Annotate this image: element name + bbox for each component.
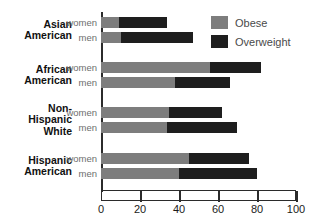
- bar-segment-obese: [101, 122, 167, 133]
- bar-row: [101, 168, 257, 179]
- bar-segment-overweight: [189, 153, 249, 164]
- x-tick-label: 100: [281, 203, 309, 215]
- x-axis-box: [101, 190, 296, 201]
- x-tick-label: 20: [125, 203, 155, 215]
- x-tick: [218, 191, 219, 202]
- bar-row: [101, 122, 237, 133]
- legend-item-overweight: Overweight: [211, 35, 291, 48]
- bar-row: [101, 107, 222, 118]
- stacked-bar-chart: AsianAmericanwomenmenAfricanAmericanwome…: [0, 0, 309, 224]
- x-tick-label: 0: [86, 203, 116, 215]
- bar-segment-obese: [101, 17, 119, 28]
- bar-segment-overweight: [119, 17, 168, 28]
- bar-segment-obese: [101, 107, 169, 118]
- legend-label-overweight: Overweight: [235, 36, 291, 48]
- legend-label-obese: Obese: [235, 17, 267, 29]
- bar-row: [101, 62, 261, 73]
- series-label-non--hispanic-white-men: men: [53, 123, 97, 133]
- legend-item-obese: Obese: [211, 16, 291, 29]
- bar-row: [101, 77, 230, 88]
- bar-segment-overweight: [169, 107, 222, 118]
- bar-segment-obese: [101, 153, 189, 164]
- series-label-african-american-men: men: [53, 78, 97, 88]
- series-label-hispanic-american-men: men: [53, 169, 97, 179]
- x-tick-label: 60: [203, 203, 233, 215]
- series-label-asian-american-men: men: [53, 33, 97, 43]
- series-label-asian-american-women: women: [53, 18, 97, 28]
- series-label-hispanic-american-women: women: [53, 154, 97, 164]
- bar-segment-overweight: [210, 62, 261, 73]
- bar-segment-obese: [101, 32, 121, 43]
- bar-segment-obese: [101, 168, 179, 179]
- bar-segment-overweight: [121, 32, 193, 43]
- bar-row: [101, 17, 167, 28]
- x-tick: [257, 191, 258, 202]
- bar-segment-overweight: [167, 122, 237, 133]
- x-tick-label: 80: [242, 203, 272, 215]
- x-tick-label: 40: [164, 203, 194, 215]
- bar-row: [101, 153, 249, 164]
- legend-swatch-obese-icon: [211, 16, 228, 29]
- x-tick: [140, 191, 141, 202]
- bar-segment-obese: [101, 77, 175, 88]
- bar-segment-overweight: [175, 77, 230, 88]
- bar-segment-obese: [101, 62, 210, 73]
- bar-row: [101, 32, 193, 43]
- legend-swatch-overweight-icon: [211, 35, 228, 48]
- legend: Obese Overweight: [211, 16, 291, 54]
- bar-segment-overweight: [179, 168, 257, 179]
- series-label-non--hispanic-white-women: women: [53, 108, 97, 118]
- series-label-african-american-women: women: [53, 63, 97, 73]
- x-tick: [179, 191, 180, 202]
- x-tick: [296, 191, 297, 202]
